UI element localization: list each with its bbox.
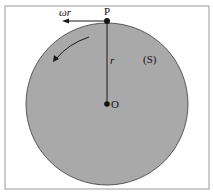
center-o-dot <box>104 101 110 107</box>
point-p-label: P <box>104 5 110 17</box>
center-o-label: O <box>111 98 119 110</box>
rotating-disk-diagram: ωr P r (S) O <box>0 0 213 194</box>
point-p-dot <box>104 18 110 24</box>
surface-label: (S) <box>143 53 157 66</box>
velocity-label: ωr <box>59 6 72 18</box>
radius-label: r <box>110 54 115 66</box>
